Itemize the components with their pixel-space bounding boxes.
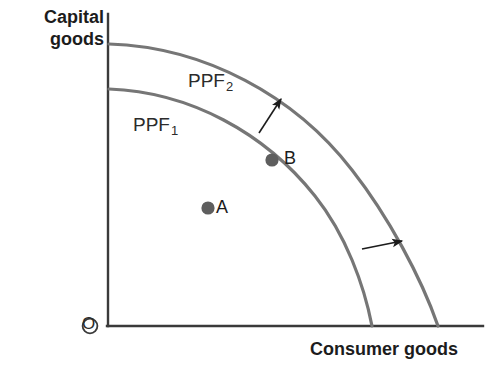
ppf1-curve-label: PPF1 xyxy=(133,114,177,136)
ppf1-label-text: PPF xyxy=(133,114,170,135)
outward-shift-arrow-lower xyxy=(362,241,402,249)
y-axis-label-line1: Capital xyxy=(0,6,104,28)
point-a-marker xyxy=(201,201,214,214)
ppf2-curve-label: PPF2 xyxy=(188,70,232,92)
y-axis-label-line2: goods xyxy=(0,28,104,50)
ppf-diagram: Capital goods Consumer goods PPF2 PPF1 B… xyxy=(0,0,496,376)
ppf-chart-canvas xyxy=(0,0,496,376)
origin-label: O xyxy=(82,314,95,334)
ppf1-label-subscript: 1 xyxy=(171,123,178,138)
ppf2-label-text: PPF xyxy=(188,70,225,91)
point-a-label: A xyxy=(216,197,228,218)
outward-shift-arrow-upper xyxy=(259,99,281,133)
point-b-label: B xyxy=(284,148,296,169)
y-axis-label: Capital goods xyxy=(0,6,104,50)
ppf2-label-subscript: 2 xyxy=(226,79,233,94)
point-b-marker xyxy=(265,153,278,166)
ppf2-curve xyxy=(109,44,438,326)
axis-lines xyxy=(107,14,483,326)
x-axis-label: Consumer goods xyxy=(310,338,458,360)
